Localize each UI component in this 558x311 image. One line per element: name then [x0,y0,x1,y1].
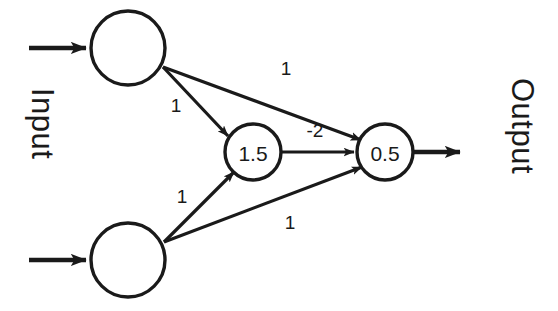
weight-hidden-to-output: -2 [307,120,324,141]
node-output-value: 0.5 [370,142,399,165]
weight-bottom-to-hidden: 1 [177,186,188,207]
weight-bottom-to-output: 1 [285,212,296,233]
node-input-top[interactable] [91,11,165,85]
input-label: Input [24,88,60,159]
weight-top-to-output: 1 [281,58,292,79]
output-label: Output [504,78,540,174]
node-input-bottom[interactable] [91,223,165,297]
edge-bottom-to-hidden [164,172,234,242]
neural-network-diagram: 1.5 0.5 1 1 1 1 -2 Input Output [0,0,558,311]
network-canvas: 1.5 0.5 1 1 1 1 -2 [0,0,558,311]
weight-top-to-hidden: 1 [171,95,182,116]
node-hidden-value: 1.5 [238,142,267,165]
